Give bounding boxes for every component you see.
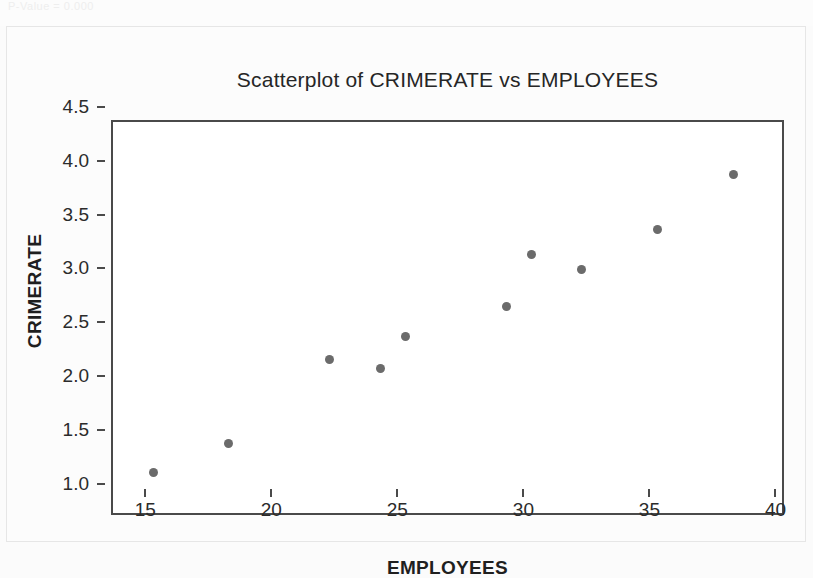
x-axis-tick xyxy=(396,489,398,497)
x-axis-tick xyxy=(774,489,776,497)
data-point xyxy=(729,170,738,179)
data-point xyxy=(653,225,662,234)
y-axis-tick-label: 4.5 xyxy=(33,96,89,118)
plot-area xyxy=(111,120,784,515)
data-points-layer xyxy=(113,122,782,513)
data-point xyxy=(149,468,158,477)
y-axis-tick-label: 1.0 xyxy=(33,473,89,495)
x-axis-tick-label: 40 xyxy=(765,499,786,521)
top-note-text: P-Value = 0.000 xyxy=(8,0,94,12)
y-axis-tick xyxy=(97,321,105,323)
data-point xyxy=(527,250,536,259)
y-axis-tick xyxy=(97,375,105,377)
data-point xyxy=(577,265,586,274)
y-axis-tick-label: 1.5 xyxy=(33,419,89,441)
y-axis-title: CRIMERATE xyxy=(24,211,46,371)
y-axis-tick xyxy=(97,106,105,108)
x-axis-tick-label: 35 xyxy=(639,499,660,521)
data-point xyxy=(376,364,385,373)
y-axis-tick xyxy=(97,160,105,162)
y-axis-tick xyxy=(97,267,105,269)
data-point xyxy=(401,332,410,341)
x-axis-tick xyxy=(648,489,650,497)
scan-noise-band: P-Value = 0.000 xyxy=(0,0,813,26)
y-axis-tick xyxy=(97,429,105,431)
x-axis-tick-label: 30 xyxy=(513,499,534,521)
x-axis-title: EMPLOYEES xyxy=(111,557,784,578)
x-axis-tick xyxy=(144,489,146,497)
x-axis-tick-label: 15 xyxy=(135,499,156,521)
data-point xyxy=(502,302,511,311)
figure-container: Scatterplot of CRIMERATE vs EMPLOYEES 15… xyxy=(6,26,806,542)
data-point xyxy=(325,355,334,364)
x-axis-tick xyxy=(270,489,272,497)
data-point xyxy=(224,439,233,448)
x-axis-tick-label: 20 xyxy=(261,499,282,521)
y-axis-tick xyxy=(97,214,105,216)
y-axis-tick-label: 4.0 xyxy=(33,150,89,172)
y-axis-tick xyxy=(97,483,105,485)
x-axis-tick-label: 25 xyxy=(387,499,408,521)
chart-title: Scatterplot of CRIMERATE vs EMPLOYEES xyxy=(111,68,784,92)
x-axis-tick xyxy=(522,489,524,497)
